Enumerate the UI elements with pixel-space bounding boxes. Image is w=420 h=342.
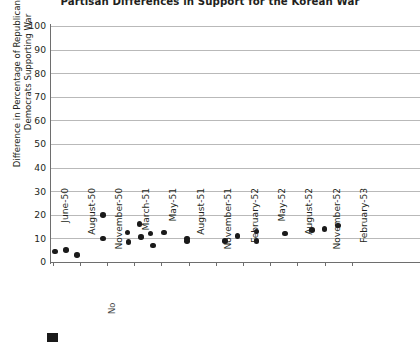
data-point — [235, 233, 241, 239]
gridline — [50, 168, 420, 169]
y-tick-label: 0 — [2, 257, 46, 266]
x-tick-label: November-51 — [222, 188, 234, 268]
y-tick-label: 50 — [2, 139, 46, 148]
data-point — [100, 236, 106, 242]
y-tick-label: 70 — [2, 92, 46, 101]
data-point — [184, 238, 190, 244]
x-tick-label: May-51 — [167, 188, 179, 268]
x-tick-mark — [243, 262, 244, 266]
x-tick-mark — [216, 262, 217, 266]
data-point — [125, 230, 131, 236]
x-tick-label: August-50 — [86, 188, 98, 268]
data-point — [52, 249, 58, 255]
x-tick-mark — [53, 262, 54, 266]
x-tick-mark — [297, 262, 298, 266]
x-tick-mark — [161, 262, 162, 266]
y-tick-label: 40 — [2, 163, 46, 172]
x-tick-mark — [189, 262, 190, 266]
x-tick-label: May-52 — [276, 188, 288, 268]
x-tick-label: June-50 — [59, 188, 71, 268]
x-tick-label: February-53 — [358, 188, 370, 268]
x-tick-label: August-52 — [303, 188, 315, 268]
gridline — [50, 120, 420, 121]
x-tick-mark — [107, 262, 108, 266]
y-tick-label: 80 — [2, 69, 46, 78]
x-tick-mark — [325, 262, 326, 266]
legend-swatch — [47, 333, 58, 342]
data-point — [100, 212, 106, 218]
y-tick-label: 90 — [2, 45, 46, 54]
y-tick-label: 30 — [2, 187, 46, 196]
x-tick-mark — [352, 262, 353, 266]
gridline — [50, 97, 420, 98]
x-tick-label: March-51 — [140, 188, 152, 268]
x-tick-label: November-50 — [113, 188, 125, 268]
gridline — [50, 144, 420, 145]
gridline — [50, 50, 420, 51]
gridline — [50, 73, 420, 74]
x-tick-label: February-52 — [249, 188, 261, 268]
y-tick-label: 10 — [2, 234, 46, 243]
data-point — [126, 239, 132, 245]
y-tick-label: 60 — [2, 116, 46, 125]
gridline — [50, 26, 420, 27]
x-tick-label: August-51 — [195, 188, 207, 268]
chart-title: Partisan Differences in Support for the … — [0, 0, 420, 9]
x-tick-mark — [270, 262, 271, 266]
legend-fragment-text: No — [108, 303, 117, 314]
x-tick-mark — [80, 262, 81, 266]
legend — [47, 333, 63, 342]
x-tick-label: November-52 — [331, 188, 343, 268]
x-tick-mark — [134, 262, 135, 266]
data-point — [74, 252, 80, 258]
y-tick-label: 20 — [2, 210, 46, 219]
y-axis-line — [50, 24, 51, 264]
y-tick-label: 100 — [2, 21, 46, 30]
data-point — [161, 230, 167, 236]
y-axis-tick-labels: 1009080706050403020100 — [0, 0, 46, 342]
data-point — [322, 226, 328, 232]
